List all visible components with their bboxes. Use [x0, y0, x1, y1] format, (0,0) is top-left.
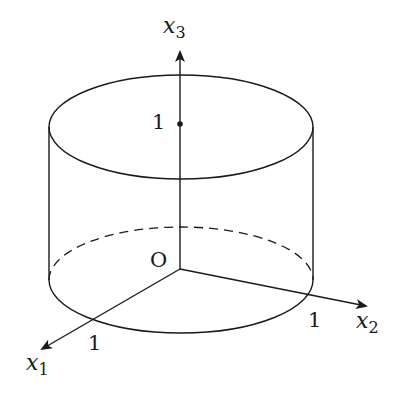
top-ellipse — [49, 75, 313, 179]
origin-label: O — [150, 248, 167, 272]
x3-tick-label: 1 — [152, 110, 165, 134]
x3-unit-point — [177, 121, 183, 127]
x1-axis-label: x1 — [26, 350, 49, 379]
bottom-ellipse-back-dashed — [49, 227, 313, 280]
cylinder-diagram: x3 1 O 1 x1 1 x2 — [0, 0, 397, 396]
x1-axis — [42, 269, 180, 349]
x3-axis-label: x3 — [163, 13, 186, 42]
x2-axis-label: x2 — [356, 308, 379, 337]
x2-tick-label: 1 — [308, 308, 321, 332]
x1-tick-label: 1 — [88, 331, 101, 355]
x2-axis — [180, 269, 366, 306]
